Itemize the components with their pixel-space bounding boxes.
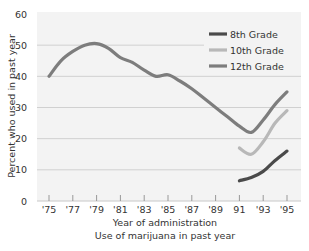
x-tick-label: '79 [89,204,104,215]
x-tick-label: '95 [280,204,295,215]
x-tick-label: '81 [113,204,128,215]
legend-label: 8th Grade [230,29,278,40]
chart-caption: Use of marijuana in past year [95,230,235,241]
chart-container: 0102030405060 '75'77'79'81'83'85'87'8991… [0,0,309,251]
x-axis-title: Year of administration [112,217,217,228]
x-tick-label: '75 [42,204,57,215]
y-tick-label: 60 [15,9,27,20]
legend-label: 12th Grade [230,61,284,72]
y-axis-title: Percent who used in past year [6,34,17,178]
line-chart: 0102030405060 '75'77'79'81'83'85'87'8991… [0,0,309,251]
x-tick-label: '77 [65,204,80,215]
x-tick-label: 91 [233,204,245,215]
x-tick-label: '93 [256,204,271,215]
x-tick-label: '85 [161,204,176,215]
legend-label: 10th Grade [230,45,284,56]
x-tick-label: '87 [184,204,199,215]
y-tick-label: 0 [21,196,27,207]
legend: 8th Grade10th Grade12th Grade [204,22,301,74]
x-tick-label: '89 [208,204,223,215]
x-tick-label: '83 [137,204,152,215]
